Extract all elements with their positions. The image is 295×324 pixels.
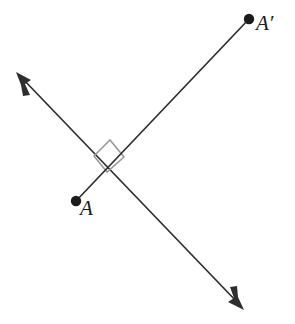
geometry-figure: A A′: [0, 0, 295, 324]
mirror-line-shaft: [22, 78, 238, 303]
arrowhead-down-right-icon: [228, 286, 244, 310]
point-label-a-prime: A′: [256, 13, 273, 34]
segment-a-to-a-prime-shaft: [76, 19, 249, 201]
mirror-line: [16, 72, 244, 310]
point-label-a: A: [80, 198, 93, 219]
segment-a-to-a-prime: [76, 19, 249, 201]
point-dot-icon-a-prime: [244, 14, 254, 24]
geometry-canvas: [0, 0, 295, 324]
